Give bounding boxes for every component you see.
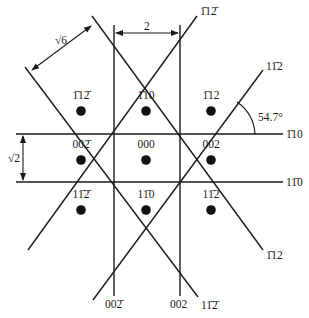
label-horizontal-bottom: 11̄0 — [286, 176, 303, 188]
spot-label: 11̄2̄ — [73, 188, 92, 200]
angle-arc — [237, 102, 255, 134]
label-top-up-right: 1̄12̄ — [200, 5, 219, 17]
spot-label: 11̄0 — [138, 188, 155, 200]
line-1bar12-band — [92, 16, 263, 250]
spot-label: 1̄12 — [203, 89, 220, 101]
spot-dot — [206, 205, 216, 215]
label-vertical-left: 002̄ — [105, 298, 124, 310]
spot-dot — [206, 155, 216, 165]
spot-dot — [141, 205, 151, 215]
spot-dot — [206, 106, 216, 116]
kikuchi-diagram: 2 √2 √6 54.7° 1̄12̄1̄101̄12002̄00000211̄… — [0, 0, 309, 318]
spot-label: 1̄10 — [138, 89, 155, 101]
line-1bar12bar-band — [28, 16, 197, 250]
spot-dot — [76, 106, 86, 116]
spot-dot — [76, 205, 86, 215]
spot-dot — [141, 106, 151, 116]
label-right-up-right: 11̄2 — [266, 60, 283, 72]
dimension-label-sqrt2: √2 — [8, 152, 20, 164]
diffraction-spots: 1̄12̄1̄101̄12002̄00000211̄2̄11̄011̄2 — [72, 89, 220, 215]
label-bottom-down-right: 11̄2̄ — [201, 299, 220, 311]
label-vertical-right: 002 — [170, 298, 188, 310]
spot-label: 002 — [202, 138, 220, 150]
spot-label: 11̄2 — [203, 188, 220, 200]
spot-dot — [141, 155, 151, 165]
line-11bar2-band — [93, 70, 263, 300]
spot-label: 000 — [137, 138, 155, 150]
dimension-label-2: 2 — [144, 20, 150, 32]
label-horizontal-top: 1̄10 — [286, 128, 303, 140]
spot-dot — [76, 155, 86, 165]
spot-label: 002̄ — [72, 138, 91, 150]
dimension-label-sqrt6: √6 — [55, 34, 67, 46]
dimension-arrow-sqrt6 — [32, 26, 91, 70]
spot-label: 1̄12̄ — [73, 89, 92, 101]
label-right-down-right: 1̄12 — [266, 249, 283, 261]
angle-label: 54.7° — [258, 111, 283, 123]
